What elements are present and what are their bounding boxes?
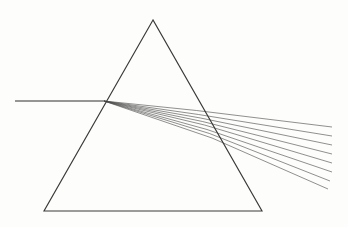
emergent-ray-1 [197, 111, 333, 128]
emergent-ray-6 [207, 130, 332, 173]
emergent-ray-3 [201, 118, 333, 145]
prism-diagram-canvas [0, 0, 348, 227]
prism-dispersion-figure [0, 0, 348, 227]
emergent-ray-8 [212, 138, 328, 189]
emergent-ray-group [197, 111, 333, 190]
internal-ray-7 [104, 101, 210, 134]
prism-outline [44, 20, 262, 211]
internal-ray-6 [104, 101, 207, 130]
internal-ray-group [104, 101, 212, 138]
internal-ray-4 [104, 101, 203, 122]
emergent-ray-4 [203, 122, 333, 155]
